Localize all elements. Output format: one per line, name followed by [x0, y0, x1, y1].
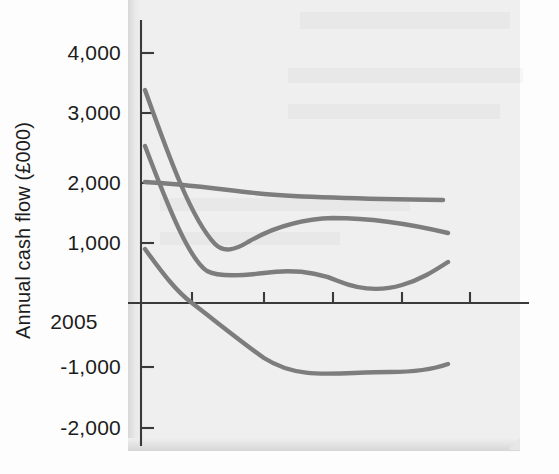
chart-canvas — [0, 0, 559, 474]
plot-panel — [128, 0, 520, 451]
cash-flow-line-chart: Annual cash flow (£000) 4,000 3,000 2,00… — [0, 0, 559, 474]
